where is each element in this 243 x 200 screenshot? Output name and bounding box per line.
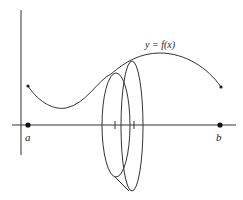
curve-start-point	[26, 84, 29, 87]
point-b	[217, 122, 222, 127]
label-b: b	[216, 131, 222, 143]
point-a	[25, 122, 30, 127]
curve-end-point	[219, 85, 222, 88]
diagram-canvas: a b y = f(x)	[0, 0, 243, 200]
curve-label: y = f(x)	[144, 39, 176, 51]
disk-ellipse-2	[121, 61, 143, 191]
label-a: a	[25, 131, 31, 143]
